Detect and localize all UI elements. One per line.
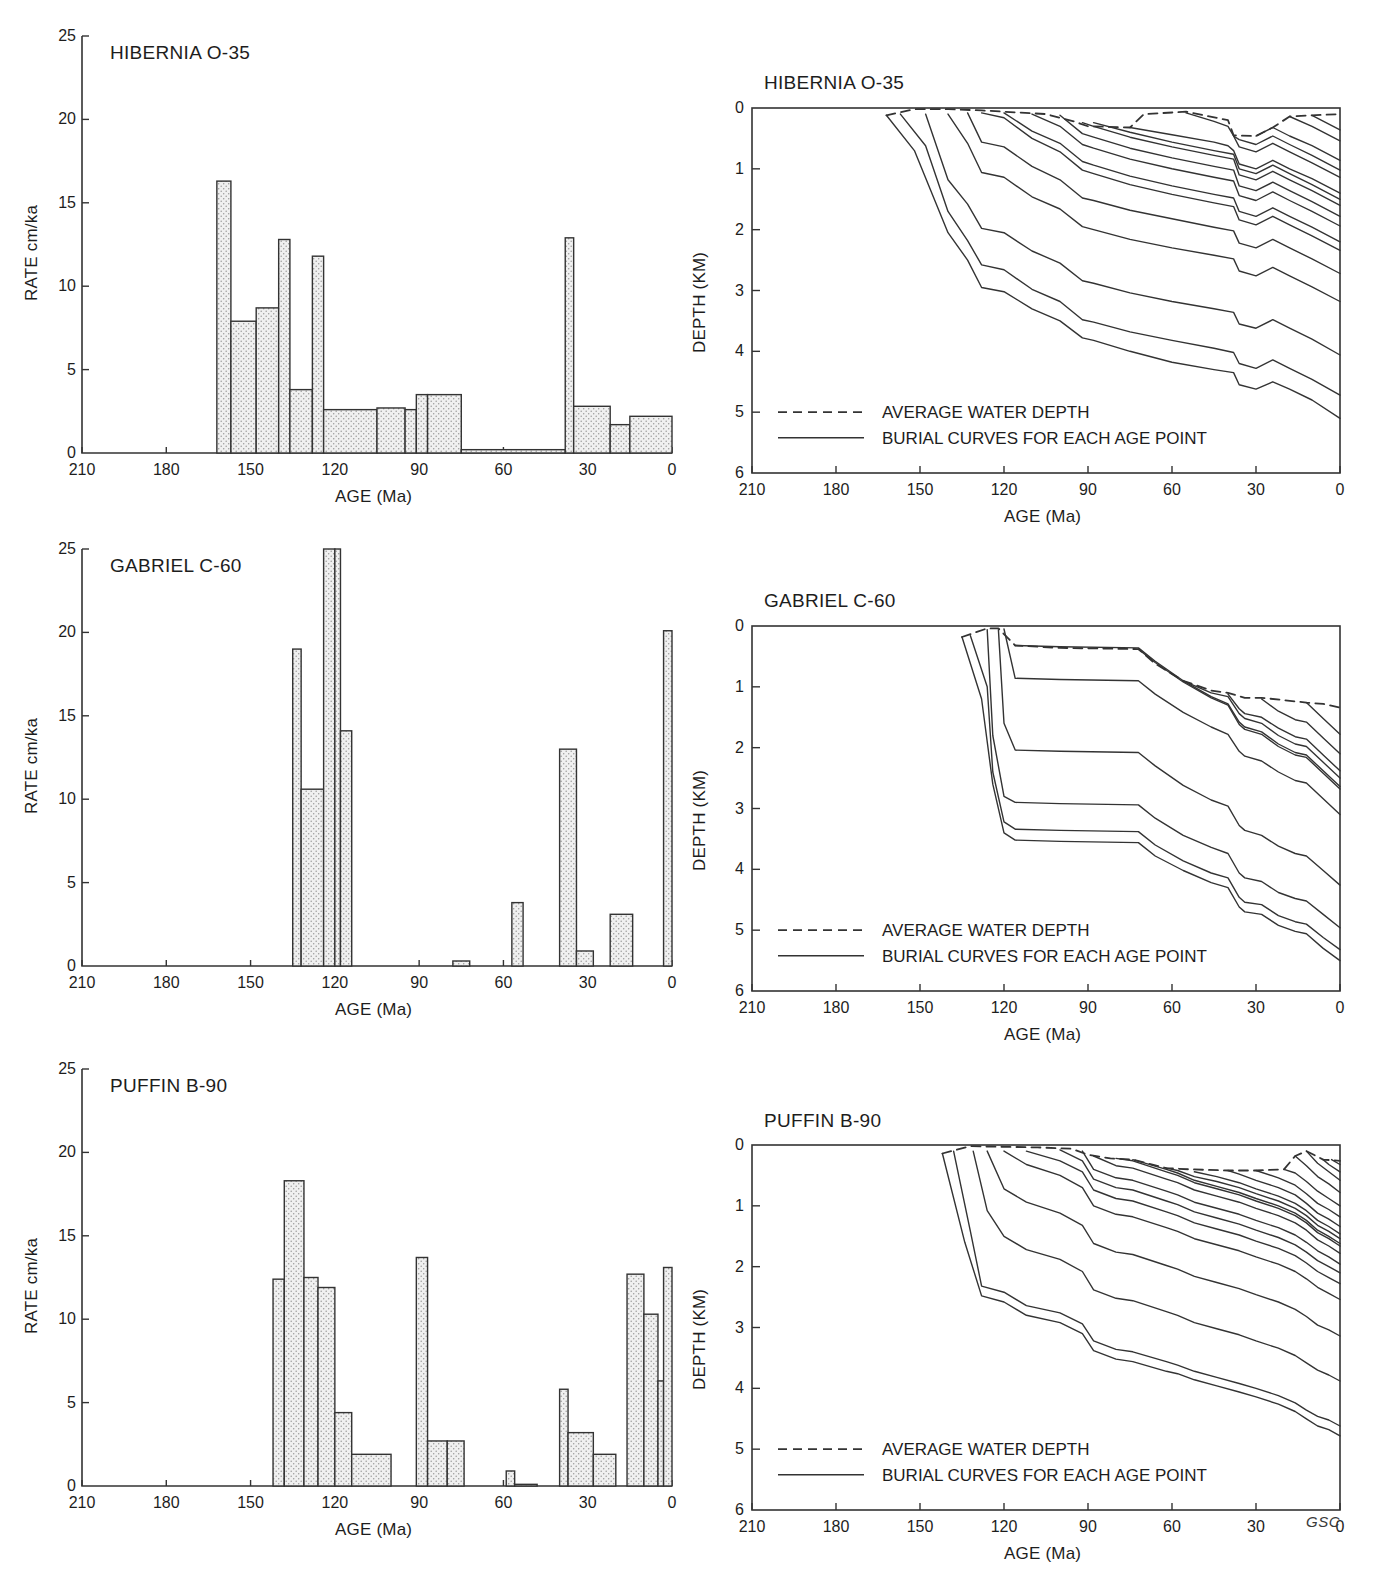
burial-curve	[1306, 1151, 1340, 1180]
burial-curve	[1015, 646, 1340, 787]
depth-y-tick-label: 3	[710, 282, 744, 300]
burial-curve	[942, 1154, 1340, 1436]
legend-water-depth-label: AVERAGE WATER DEPTH	[882, 403, 1090, 422]
burial-panel-title: HIBERNIA O-35	[764, 72, 904, 94]
legend-burial-label: BURIAL CURVES FOR EACH AGE POINT	[882, 947, 1207, 966]
burial-curve	[970, 636, 1340, 950]
depth-x-tick-label: 30	[1247, 1518, 1265, 1536]
depth-y-tick-label: 0	[710, 99, 744, 117]
depth-x-tick-label: 60	[1163, 1518, 1181, 1536]
depth-x-tick-label: 0	[1336, 481, 1345, 499]
rate-panel-title: GABRIEL C-60	[110, 555, 242, 577]
burial-curve	[1186, 113, 1340, 177]
burial-curve	[954, 1151, 1340, 1426]
burial-curve	[1228, 694, 1340, 771]
burial-curve	[973, 1151, 1340, 1381]
depth-x-tick-label: 30	[1247, 999, 1265, 1017]
burial-curve-plot: AVERAGE WATER DEPTHBURIAL CURVES FOR EAC…	[752, 1145, 1340, 1510]
rate-panel-title: PUFFIN B-90	[110, 1075, 227, 1097]
burial-curve	[998, 630, 1340, 886]
depth-y-tick-label: 3	[710, 1319, 744, 1337]
depth-x-tick-label: 150	[907, 999, 934, 1017]
depth-y-axis-label: DEPTH (KM)	[690, 251, 710, 352]
depth-y-axis-label: DEPTH (KM)	[690, 1288, 710, 1389]
depth-x-tick-label: 150	[907, 1518, 934, 1536]
depth-y-tick-label: 4	[710, 1379, 744, 1397]
depth-x-tick-label: 120	[991, 1518, 1018, 1536]
depth-y-tick-label: 3	[710, 800, 744, 818]
depth-x-tick-label: 150	[907, 481, 934, 499]
legend-water-depth-label: AVERAGE WATER DEPTH	[882, 921, 1090, 940]
water-depth-curve	[962, 628, 1340, 707]
burial-curve	[1295, 1156, 1340, 1193]
depth-y-tick-label: 5	[710, 1440, 744, 1458]
burial-curve-plot: AVERAGE WATER DEPTHBURIAL CURVES FOR EAC…	[752, 626, 1340, 991]
legend-burial-label: BURIAL CURVES FOR EACH AGE POINT	[882, 1466, 1207, 1485]
depth-y-tick-label: 2	[710, 1258, 744, 1276]
depth-x-tick-label: 180	[823, 999, 850, 1017]
burial-curve-plot: AVERAGE WATER DEPTHBURIAL CURVES FOR EAC…	[752, 108, 1340, 473]
depth-x-tick-label: 0	[1336, 999, 1345, 1017]
burial-curve	[1290, 117, 1340, 141]
depth-x-tick-label: 180	[823, 1518, 850, 1536]
depth-x-tick-label: 210	[739, 481, 766, 499]
depth-y-tick-label: 2	[710, 739, 744, 757]
burial-curve	[1026, 1151, 1340, 1284]
burial-curve	[1082, 123, 1340, 206]
burial-curve	[926, 114, 1340, 355]
depth-y-tick-label: 5	[710, 921, 744, 939]
depth-x-axis-label: AGE (Ma)	[1004, 1544, 1081, 1564]
depth-y-tick-label: 4	[710, 860, 744, 878]
depth-x-axis-label: AGE (Ma)	[1004, 507, 1081, 527]
depth-x-tick-label: 90	[1079, 999, 1097, 1017]
depth-y-tick-label: 4	[710, 342, 744, 360]
gsc-credit-label: GSC	[1306, 1513, 1340, 1530]
depth-x-axis-label: AGE (Ma)	[1004, 1025, 1081, 1045]
burial-curve	[1060, 115, 1340, 216]
burial-curve	[1234, 136, 1340, 170]
burial-panel-title: GABRIEL C-60	[764, 590, 896, 612]
legend-burial-label: BURIAL CURVES FOR EACH AGE POINT	[882, 429, 1207, 448]
depth-y-tick-label: 1	[710, 160, 744, 178]
depth-y-tick-label: 6	[710, 1501, 744, 1519]
depth-y-tick-label: 0	[710, 1136, 744, 1154]
depth-x-tick-label: 90	[1079, 481, 1097, 499]
depth-y-tick-label: 1	[710, 678, 744, 696]
rate-y-tick-label: 25	[38, 540, 76, 558]
rate-y-tick-label: 25	[38, 27, 76, 45]
depth-x-tick-label: 210	[739, 1518, 766, 1536]
depth-y-tick-label: 0	[710, 617, 744, 635]
depth-y-tick-label: 6	[710, 982, 744, 1000]
depth-y-tick-label: 5	[710, 403, 744, 421]
depth-x-tick-label: 120	[991, 481, 1018, 499]
depth-y-tick-label: 1	[710, 1197, 744, 1215]
burial-curve	[1094, 123, 1340, 200]
depth-x-tick-label: 60	[1163, 481, 1181, 499]
burial-curve	[1004, 629, 1340, 815]
depth-y-axis-label: DEPTH (KM)	[690, 769, 710, 870]
burial-curve	[968, 113, 1340, 274]
water-depth-curve	[942, 1146, 1340, 1170]
depth-x-tick-label: 60	[1163, 999, 1181, 1017]
depth-x-tick-label: 210	[739, 999, 766, 1017]
burial-curve	[1116, 1158, 1340, 1246]
burial-curve	[1060, 1150, 1340, 1273]
burial-curve	[948, 114, 1340, 301]
rate-panel-title: HIBERNIA O-35	[110, 42, 250, 64]
depth-y-tick-label: 6	[710, 464, 744, 482]
depth-x-tick-label: 30	[1247, 481, 1265, 499]
depth-y-tick-label: 2	[710, 221, 744, 239]
burial-curve	[962, 637, 1340, 961]
depth-x-tick-label: 180	[823, 481, 850, 499]
burial-curve	[1306, 703, 1340, 735]
burial-panel-title: PUFFIN B-90	[764, 1110, 881, 1132]
rate-y-tick-label: 25	[38, 1060, 76, 1078]
legend-water-depth-label: AVERAGE WATER DEPTH	[882, 1440, 1090, 1459]
depth-x-tick-label: 120	[991, 999, 1018, 1017]
depth-x-tick-label: 90	[1079, 1518, 1097, 1536]
burial-curve	[987, 630, 1340, 928]
